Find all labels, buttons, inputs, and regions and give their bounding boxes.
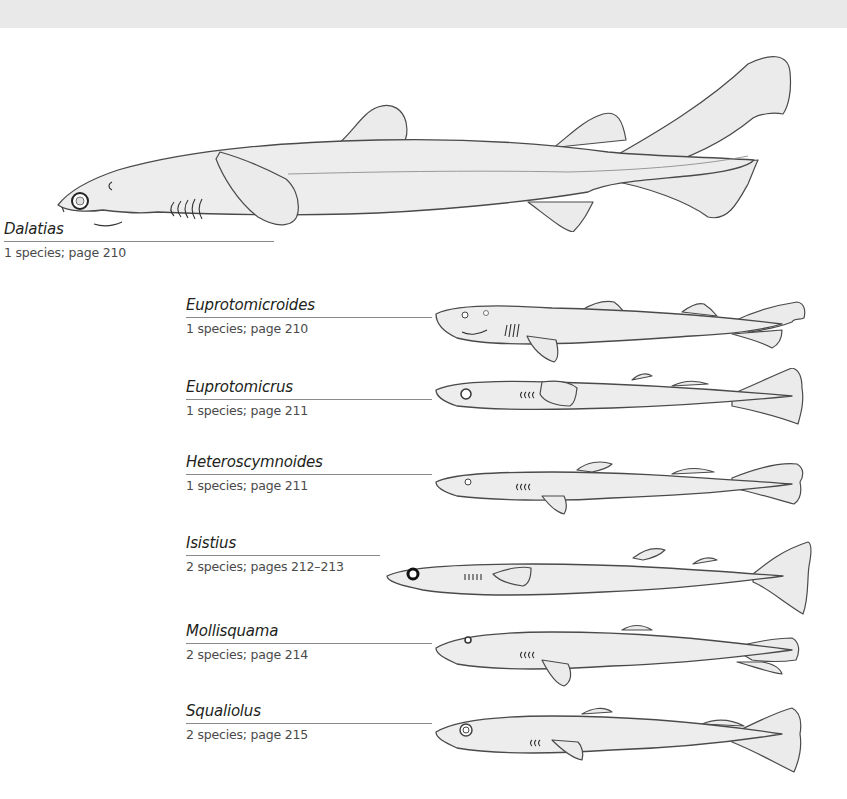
page-header-band (0, 0, 847, 28)
mollisquama-shark-illustration (432, 622, 812, 702)
divider-rule (186, 474, 432, 475)
genus-name: Euprotomicrus (186, 378, 432, 396)
genus-name: Mollisquama (186, 622, 432, 640)
genus-species-page-info: 1 species; page 210 (186, 321, 432, 337)
genus-species-page-info: 2 species; page 215 (186, 727, 432, 743)
genus-name: Squaliolus (186, 702, 432, 720)
divider-rule (186, 643, 432, 644)
divider-rule (186, 399, 432, 400)
genus-species-page-info: 1 species; page 211 (186, 403, 432, 419)
dalatias-shark-illustration (48, 52, 828, 232)
genus-name: Dalatias (4, 220, 274, 238)
genus-name: Euprotomicroides (186, 296, 432, 314)
genus-entry-isistius: Isistius 2 species; pages 212–213 (186, 534, 380, 575)
isistius-shark-illustration (383, 540, 823, 620)
genus-species-page-info: 1 species; page 210 (4, 245, 274, 261)
genus-entry-heteroscymnoides: Heteroscymnoides 1 species; page 211 (186, 453, 432, 494)
squaliolus-shark-illustration (432, 706, 812, 796)
genus-entry-euprotomicroides: Euprotomicroides 1 species; page 210 (186, 296, 432, 337)
genus-name: Heteroscymnoides (186, 453, 432, 471)
genus-entry-squaliolus: Squaliolus 2 species; page 215 (186, 702, 432, 743)
euprotomicroides-shark-illustration (432, 300, 812, 370)
divider-rule (186, 555, 380, 556)
heteroscymnoides-shark-illustration (432, 452, 812, 522)
divider-rule (186, 723, 432, 724)
genus-species-page-info: 2 species; page 214 (186, 647, 432, 663)
genus-species-page-info: 1 species; page 211 (186, 478, 432, 494)
divider-rule (4, 241, 274, 242)
genus-entry-euprotomicrus: Euprotomicrus 1 species; page 211 (186, 378, 432, 419)
genus-name: Isistius (186, 534, 380, 552)
genus-species-page-info: 2 species; pages 212–213 (186, 559, 380, 575)
genus-entry-dalatias: Dalatias 1 species; page 210 (4, 220, 274, 261)
divider-rule (186, 317, 432, 318)
genus-entry-mollisquama: Mollisquama 2 species; page 214 (186, 622, 432, 663)
euprotomicrus-shark-illustration (432, 368, 812, 428)
